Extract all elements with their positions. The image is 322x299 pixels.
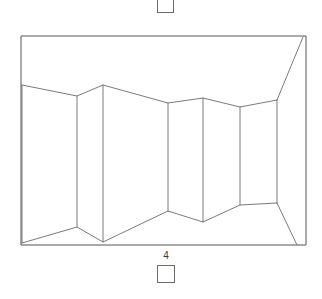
drawing-frame (21, 36, 306, 245)
figure-label: 4 (150, 250, 182, 262)
bottom-marker-square[interactable] (157, 265, 175, 283)
figure-canvas: 4 (0, 0, 322, 299)
top-marker-square[interactable] (157, 0, 174, 13)
